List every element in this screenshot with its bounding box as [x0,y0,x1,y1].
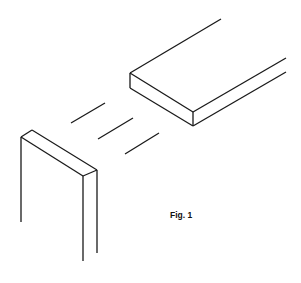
dash-line [98,118,133,139]
board-front-bottom-edge [193,72,286,126]
figure-drawing: Fig. 1 [0,0,301,283]
alignment-dashes [71,103,159,154]
figure-label: Fig. 1 [170,210,192,220]
board-back-top-edge [130,19,221,73]
post-top-right-edge [83,170,97,176]
board-front-top-edge [193,58,286,112]
board [130,19,286,126]
post-top-left-edge [21,130,32,137]
dash-line [125,133,159,154]
post [21,130,97,261]
board-end-bottom-edge [130,88,193,126]
dash-line [71,103,105,123]
board-end-top-edge [130,73,193,112]
